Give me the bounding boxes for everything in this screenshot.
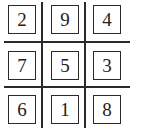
grid-line-vertical-2 — [84, 2, 86, 128]
cell-r3-c2: 1 — [51, 95, 79, 124]
magic-square-grid: 2 9 4 7 5 3 6 1 8 — [0, 0, 148, 133]
cell-r2-c2: 5 — [51, 51, 79, 80]
cell-r2-c1: 7 — [8, 51, 36, 80]
cell-r3-c3: 8 — [93, 95, 121, 124]
grid-line-horizontal-2 — [4, 86, 130, 88]
cell-r2-c3: 3 — [93, 51, 121, 80]
grid-line-vertical-1 — [41, 2, 43, 128]
cell-r3-c1: 6 — [8, 95, 36, 124]
cell-r1-c1: 2 — [8, 5, 36, 34]
cell-r1-c2: 9 — [51, 5, 79, 34]
cell-r1-c3: 4 — [93, 5, 121, 34]
grid-line-horizontal-1 — [4, 41, 130, 43]
